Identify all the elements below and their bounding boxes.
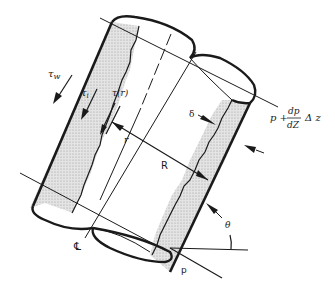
label-delta: δ: [189, 109, 194, 119]
bottom-plane-line: [20, 173, 165, 250]
label-pressure-top-den: dZ: [287, 120, 300, 130]
right-liquid-film: [150, 100, 250, 272]
label-tau-r: τ(r): [112, 88, 129, 98]
r-arrowhead: [112, 122, 124, 131]
annular-flow-diagram: τw τi τ(r) r R δ p + dp dZ Δ z ℄ p θ: [0, 0, 335, 298]
radius-R-line: [112, 122, 208, 180]
label-r: r: [124, 135, 129, 145]
label-centerline: ℄: [73, 240, 81, 253]
bottom-left-ellipse: [33, 206, 94, 229]
theta-arc: [230, 235, 231, 249]
label-pressure-bottom: p: [181, 265, 187, 275]
label-R: R: [161, 160, 168, 171]
label-pressure-top: p +: [270, 112, 288, 123]
label-pressure-top-dz: Δ z: [304, 112, 321, 123]
delta-arrow-right: [244, 145, 256, 153]
label-pressure-top-num: dp: [288, 106, 300, 116]
label-tau-w: τw: [48, 68, 61, 81]
upper-right-ellipse-back: [190, 58, 232, 100]
label-theta: θ: [225, 220, 231, 230]
bottom-normal-line: [170, 248, 222, 278]
delta-arrow-right-tail: [256, 150, 264, 153]
wall-normal-arrow-tail: [216, 212, 222, 218]
